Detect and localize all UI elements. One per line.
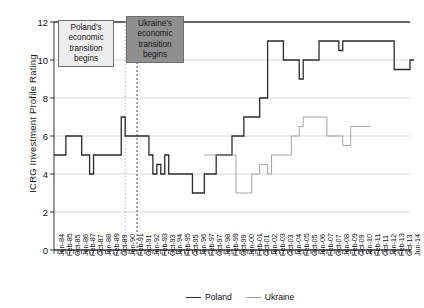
legend-item-poland: Poland <box>186 292 232 302</box>
annotation-ukraine-transition: Ukraine's economic transition begins <box>126 16 184 63</box>
annotation-poland-transition: Poland's economic transition begins <box>58 20 114 67</box>
legend-label-ukraine: Ukraine <box>265 292 295 302</box>
legend-swatch-ukraine-icon <box>246 297 261 298</box>
annotation-poland-line4: begins <box>61 54 111 64</box>
chart-container: ICRG Investment Profile Rating 12 10 8 6… <box>0 0 424 308</box>
annotation-ukraine-line2: economic <box>129 29 181 39</box>
annotation-ukraine-line1: Ukraine's <box>129 19 181 29</box>
x-tick-label: Jun-14 <box>413 234 422 256</box>
legend-swatch-poland-icon <box>186 297 201 298</box>
annotation-poland-line3: transition <box>61 44 111 54</box>
annotation-ukraine-line4: begins <box>129 50 181 60</box>
annotation-poland-line1: Poland's <box>61 23 111 33</box>
annotation-poland-line2: economic <box>61 33 111 43</box>
legend-item-ukraine: Ukraine <box>246 292 295 302</box>
chart-legend: Poland Ukraine <box>186 292 294 302</box>
annotation-ukraine-line3: transition <box>129 40 181 50</box>
legend-label-poland: Poland <box>205 292 232 302</box>
